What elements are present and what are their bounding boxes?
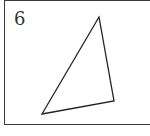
triangle-figure — [0, 0, 150, 136]
triangle-shape — [42, 17, 114, 114]
